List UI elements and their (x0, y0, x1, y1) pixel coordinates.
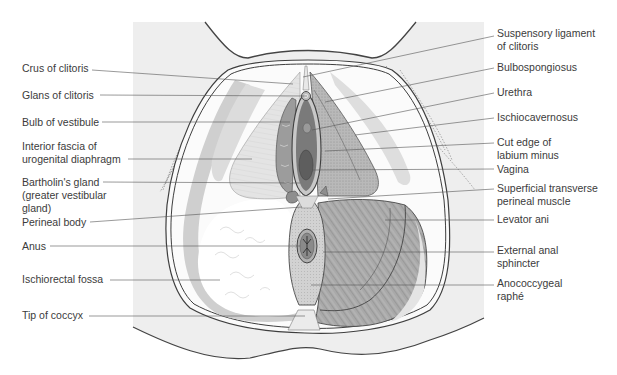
label-line: perineal muscle (497, 195, 598, 208)
label-ischiorectal-fossa: Ischiorectal fossa (22, 273, 103, 286)
label-tip-of-coccyx: Tip of coccyx (22, 309, 83, 322)
label-urethra: Urethra (497, 86, 532, 99)
label-line: Suspensory ligament (497, 27, 595, 40)
label-line: Interior fascia of (22, 140, 121, 153)
label-crus-of-clitoris: Crus of clitoris (22, 62, 89, 75)
label-line: (greater vestibular (22, 189, 107, 202)
label-line: External anal (497, 244, 558, 257)
label-line: of clitoris (497, 40, 595, 53)
vaginal-opening (299, 150, 313, 180)
label-anus: Anus (22, 240, 46, 253)
label-line: gland) (22, 202, 107, 215)
label-interior-fascia: Interior fascia of urogenital diaphragm (22, 140, 121, 166)
label-cut-edge-labium-minus: Cut edge of labium minus (497, 136, 559, 162)
label-superficial-transverse: Superficial transverse perineal muscle (497, 182, 598, 208)
label-line: Anococcygeal (497, 277, 562, 290)
label-bulb-of-vestibule: Bulb of vestibule (22, 116, 99, 129)
label-levator-ani: Levator ani (497, 213, 549, 226)
label-bulbospongiosus: Bulbospongiosus (497, 61, 577, 74)
label-line: Bartholin's gland (22, 176, 107, 189)
urethra-opening (303, 123, 311, 133)
label-line: urogenital diaphragm (22, 153, 121, 166)
label-bartholins-gland: Bartholin's gland (greater vestibular gl… (22, 176, 107, 215)
label-anococcygeal-raphe: Anococcygeal raphé (497, 277, 562, 303)
label-vagina: Vagina (497, 163, 529, 176)
label-line: Cut edge of (497, 136, 559, 149)
pubic-contour (205, 0, 416, 58)
label-line: Superficial transverse (497, 182, 598, 195)
label-line: labium minus (497, 149, 559, 162)
label-line: raphé (497, 290, 562, 303)
label-perineal-body: Perineal body (22, 216, 86, 229)
label-ischiocavernosus: Ischiocavernosus (497, 111, 578, 124)
label-line: sphincter (497, 257, 558, 270)
label-glans-of-clitoris: Glans of clitoris (22, 89, 94, 102)
label-suspensory-ligament: Suspensory ligament of clitoris (497, 27, 595, 53)
label-external-anal-sphincter: External anal sphincter (497, 244, 558, 270)
